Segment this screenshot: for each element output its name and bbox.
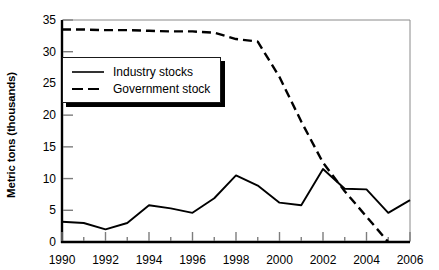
chart-legend: Industry stocks Government stock [62, 57, 221, 103]
series-line-industry-stocks [62, 169, 410, 229]
legend-swatch-dashed-icon [71, 83, 105, 95]
legend-item: Industry stocks [71, 63, 210, 80]
legend-item: Government stock [71, 80, 210, 97]
legend-label-industry: Industry stocks [113, 66, 193, 78]
line-chart: Metric tons (thousands) 05101520253035 1… [0, 0, 439, 270]
legend-label-government: Government stock [113, 83, 210, 95]
plot-area [0, 0, 439, 270]
legend-swatch-solid-icon [71, 66, 105, 78]
